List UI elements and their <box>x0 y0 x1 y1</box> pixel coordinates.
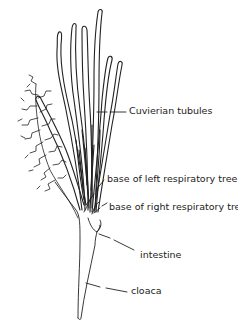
label-base-left-respiratory-tree: base of left respiratory tree <box>107 173 237 184</box>
label-cloaca: cloaca <box>131 285 162 296</box>
respiratory-tree-icon <box>18 75 78 218</box>
label-base-right-respiratory-tree: base of right respiratory tree <box>109 201 238 212</box>
diagram-canvas: Cuvierian tubules base of left respirato… <box>0 0 238 330</box>
leader-intestine <box>99 234 134 250</box>
leader-cloaca <box>86 283 127 292</box>
label-cuvierian-tubules: Cuvierian tubules <box>129 105 212 116</box>
anatomy-drawing <box>0 0 238 330</box>
label-intestine: intestine <box>140 249 181 260</box>
